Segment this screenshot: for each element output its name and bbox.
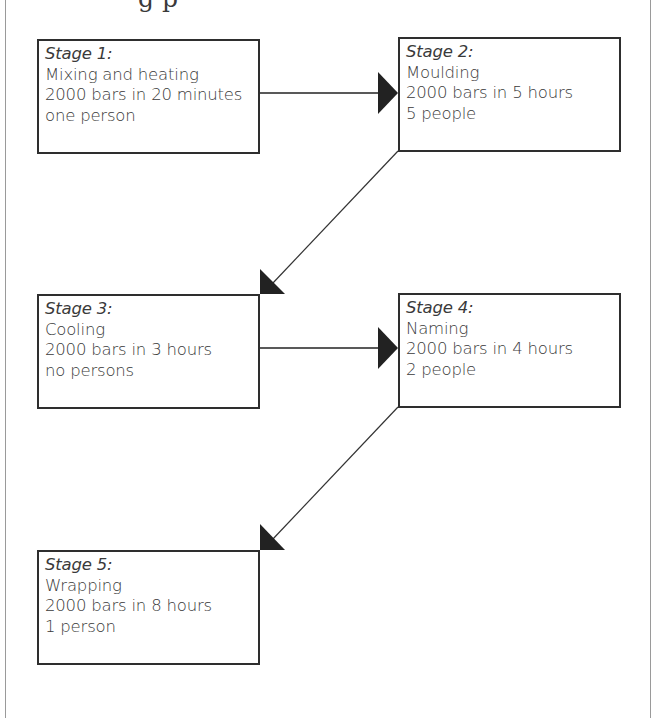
- stage-5-box: Stage 5: Wrapping 2000 bars in 8 hours 1…: [37, 550, 260, 665]
- arrow-stage2-to-stage3: [260, 151, 398, 294]
- stage-heading: Stage 2:: [406, 42, 619, 63]
- arrowhead-icon: [378, 72, 398, 114]
- stage-staff: 2 people: [406, 360, 619, 381]
- arrow-stage3-to-stage4: [259, 327, 398, 369]
- stage-rate: 2000 bars in 5 hours: [406, 83, 619, 104]
- arrow-stage1-to-stage2: [259, 72, 398, 114]
- stage-4-box: Stage 4: Naming 2000 bars in 4 hours 2 p…: [398, 293, 621, 408]
- arrow-stage4-to-stage5: [260, 407, 398, 550]
- stage-heading: Stage 3:: [45, 299, 258, 320]
- stage-name: Cooling: [45, 320, 258, 341]
- stage-staff: 5 people: [406, 104, 619, 125]
- stage-staff: 1 person: [45, 617, 258, 638]
- arrowhead-icon: [378, 327, 398, 369]
- stage-staff: no persons: [45, 361, 258, 382]
- stage-name: Naming: [406, 319, 619, 340]
- stage-rate: 2000 bars in 3 hours: [45, 340, 258, 361]
- stage-name: Moulding: [406, 63, 619, 84]
- stage-heading: Stage 5:: [45, 555, 258, 576]
- stage-name: Mixing and heating: [45, 65, 258, 86]
- stage-rate: 2000 bars in 20 minutes: [45, 85, 258, 106]
- arrowhead-icon: [260, 269, 285, 294]
- stage-rate: 2000 bars in 8 hours: [45, 596, 258, 617]
- stage-heading: Stage 1:: [45, 44, 258, 65]
- arrowhead-icon: [260, 524, 285, 550]
- stage-2-box: Stage 2: Moulding 2000 bars in 5 hours 5…: [398, 37, 621, 152]
- stage-1-box: Stage 1: Mixing and heating 2000 bars in…: [37, 39, 260, 154]
- stage-3-box: Stage 3: Cooling 2000 bars in 3 hours no…: [37, 294, 260, 409]
- stage-rate: 2000 bars in 4 hours: [406, 339, 619, 360]
- stage-heading: Stage 4:: [406, 298, 619, 319]
- stage-name: Wrapping: [45, 576, 258, 597]
- stage-staff: one person: [45, 106, 258, 127]
